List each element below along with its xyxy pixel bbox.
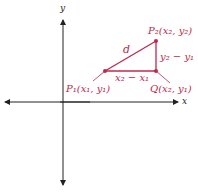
x-axis-label: x bbox=[182, 96, 187, 106]
q-label: Q(x₂, y₁) bbox=[150, 83, 192, 94]
vertical-label: y₂ − y₁ bbox=[159, 51, 194, 62]
distance-diagram: y x d x₂ − x₁ y₂ − y₁ P₂(x₂, y₂) P₁(x₁, … bbox=[0, 0, 198, 195]
p1-leader bbox=[93, 71, 105, 81]
p1-label: P₁(x₁, y₁) bbox=[65, 83, 110, 94]
diagram-svg: y x d x₂ − x₁ y₂ − y₁ P₂(x₂, y₂) P₁(x₁, … bbox=[0, 0, 198, 195]
point-p2 bbox=[154, 39, 158, 43]
point-p1 bbox=[103, 69, 107, 73]
hypotenuse-label: d bbox=[123, 43, 130, 56]
q-leader bbox=[156, 71, 170, 83]
horizontal-label: x₂ − x₁ bbox=[115, 72, 149, 83]
hypotenuse-segment bbox=[105, 41, 156, 71]
point-q bbox=[154, 69, 158, 73]
y-axis-label: y bbox=[59, 3, 66, 13]
p2-label: P₂(x₂, y₂) bbox=[147, 25, 192, 36]
